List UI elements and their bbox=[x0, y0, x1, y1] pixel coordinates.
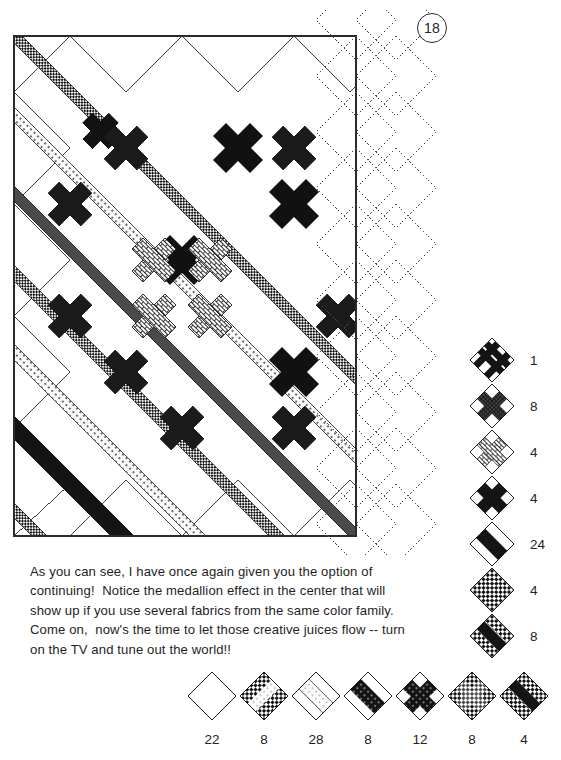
legend-side: 1 8 4 4 24 4 8 bbox=[462, 330, 561, 660]
legend-side-count-4: 4 bbox=[530, 491, 538, 506]
quilt-pattern-page: 18 bbox=[0, 0, 561, 760]
quilt-diagram bbox=[0, 8, 470, 556]
legend-block-speckle-cross bbox=[470, 384, 514, 428]
legend-bottom-block-striped-band bbox=[292, 672, 340, 720]
legend-bottom-count-5: 12 bbox=[412, 732, 427, 747]
legend-block-diagonal-band bbox=[470, 522, 514, 566]
legend-bottom-count-6: 8 bbox=[468, 732, 476, 747]
legend-bottom-count-4: 8 bbox=[364, 732, 372, 747]
legend-side-count-1: 1 bbox=[530, 353, 538, 368]
legend-bottom-block-gray-checker bbox=[448, 672, 496, 720]
legend-bottom-block-checker-band bbox=[500, 672, 548, 720]
page-number-badge: 18 bbox=[417, 13, 447, 43]
legend-bottom: 22 8 28 8 12 8 4 bbox=[180, 662, 561, 760]
legend-bottom-count-7: 4 bbox=[520, 732, 528, 747]
legend-bottom-block-black-band bbox=[344, 672, 392, 720]
legend-bottom-count-2: 8 bbox=[260, 732, 268, 747]
legend-side-count-5: 24 bbox=[530, 537, 546, 552]
legend-side-count-6: 4 bbox=[530, 583, 538, 598]
legend-block-brick-cross bbox=[470, 430, 514, 474]
legend-block-checker-grid bbox=[470, 568, 514, 612]
caption-line-3: show up if you use several fabrics from … bbox=[30, 601, 470, 620]
legend-bottom-block-plain bbox=[188, 672, 236, 720]
legend-side-count-2: 8 bbox=[530, 399, 538, 414]
caption-line-2: continuing! Notice the medallion effect … bbox=[30, 581, 470, 600]
legend-bottom-block-dotted-cross bbox=[396, 672, 444, 720]
legend-side-count-7: 8 bbox=[530, 629, 538, 644]
legend-bottom-block-dot-checker bbox=[240, 672, 288, 720]
caption-line-1: As you can see, I have once again given … bbox=[30, 562, 470, 581]
legend-block-solid-cross bbox=[470, 476, 514, 520]
legend-bottom-count-3: 28 bbox=[308, 732, 323, 747]
caption-line-5: on the TV and tune out the world!! bbox=[30, 640, 470, 659]
legend-bottom-count-1: 22 bbox=[204, 732, 219, 747]
legend-side-count-3: 4 bbox=[530, 445, 538, 460]
caption-line-4: Come on, now's the time to let those cre… bbox=[30, 620, 470, 639]
legend-block-stripe-9patch bbox=[470, 338, 514, 382]
page-number-label: 18 bbox=[424, 20, 440, 36]
caption-paragraph: As you can see, I have once again given … bbox=[30, 562, 470, 659]
legend-block-band-checker bbox=[470, 614, 514, 658]
